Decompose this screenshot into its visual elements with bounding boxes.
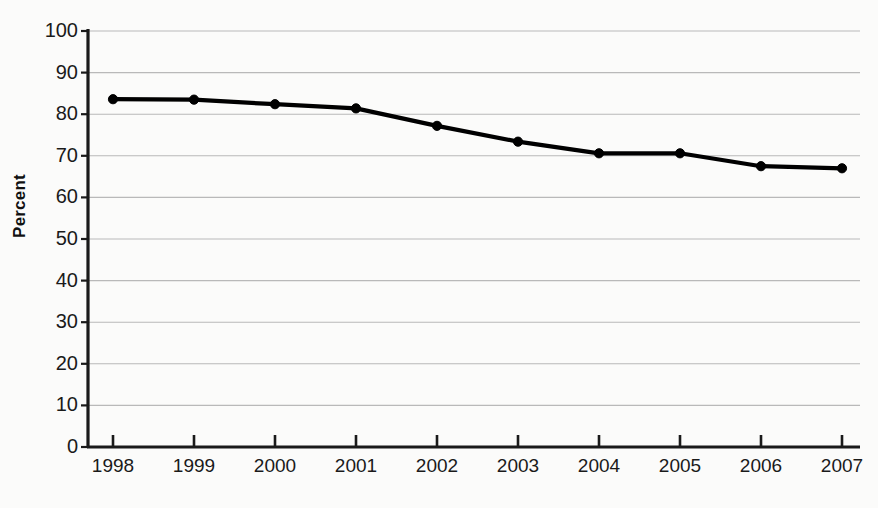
axes [81, 29, 860, 447]
plot-area [0, 0, 878, 508]
data-point [270, 100, 279, 109]
data-point [675, 149, 684, 158]
data-point [756, 162, 765, 171]
data-point [513, 137, 522, 146]
data-line [113, 99, 842, 168]
gridlines [88, 31, 860, 405]
data-point [189, 95, 198, 104]
data-point [351, 104, 360, 113]
data-point [594, 149, 603, 158]
data-point [837, 164, 846, 173]
data-point [432, 121, 441, 130]
data-point [108, 95, 117, 104]
line-chart: Percent 0102030405060708090100 199819992… [0, 0, 878, 508]
